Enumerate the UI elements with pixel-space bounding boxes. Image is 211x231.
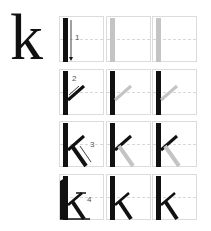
stroke-3-trace-icon <box>153 122 198 168</box>
stroke-2-guided-icon <box>60 70 105 116</box>
practice-cell-r3-c3 <box>152 121 197 167</box>
letter-k-complete-icon <box>153 175 198 221</box>
letter-k-complete-icon <box>60 175 105 221</box>
practice-cell-r4-c1: 4 <box>59 174 104 220</box>
practice-cell-r3-c2 <box>106 121 151 167</box>
stroke-1-trace-icon <box>107 17 152 63</box>
model-letter: k <box>10 4 43 70</box>
stroke-2-trace-icon <box>107 70 152 116</box>
practice-cell-r1-c3 <box>152 16 197 62</box>
practice-cell-r2-c2 <box>106 69 151 115</box>
practice-cell-r2-c1: 2 <box>59 69 104 115</box>
letter-k-complete-icon <box>107 175 152 221</box>
stroke-3-trace-icon <box>107 122 152 168</box>
practice-cell-r1-c1: 1 <box>59 16 104 62</box>
stroke-3-guided-icon <box>60 122 105 168</box>
stroke-2-trace-icon <box>153 70 198 116</box>
practice-cell-r4-c2 <box>106 174 151 220</box>
step-number: 3 <box>90 140 94 149</box>
practice-cell-r2-c3 <box>152 69 197 115</box>
practice-cell-r1-c2 <box>106 16 151 62</box>
stroke-1-guided-icon <box>60 17 105 63</box>
practice-cell-r4-c3 <box>152 174 197 220</box>
step-number: 2 <box>72 74 76 83</box>
stroke-1-trace-icon <box>153 17 198 63</box>
step-number: 4 <box>87 195 91 204</box>
practice-cell-r3-c1: 3 <box>59 121 104 167</box>
step-number: 1 <box>75 33 79 42</box>
